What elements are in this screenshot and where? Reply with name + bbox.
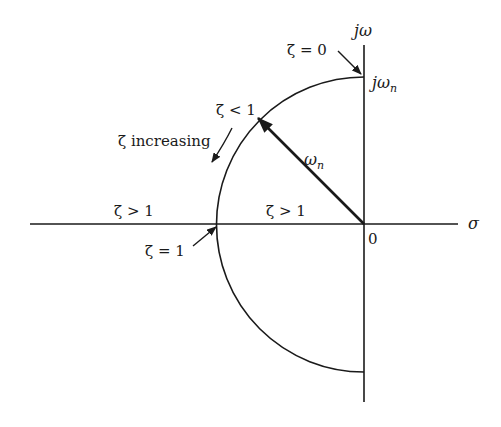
imaginary-axis-label: jω	[351, 21, 372, 40]
zeta-increasing-label: ζ increasing	[118, 132, 211, 150]
zeta-greater-one-left-label: ζ > 1	[114, 202, 154, 220]
zeta-less-one-label: ζ < 1	[216, 101, 256, 119]
zeta-zero-pointer-arrow	[338, 51, 361, 74]
zeta-one-pointer-arrow	[193, 227, 216, 246]
origin-label: 0	[368, 230, 378, 248]
radius-label: ωn	[304, 150, 324, 172]
zeta-increasing-arrow	[212, 128, 232, 162]
zeta-zero-label: ζ = 0	[287, 41, 327, 59]
radius-label-main: ω	[304, 150, 317, 169]
circle-top-label-main: jω	[369, 73, 390, 92]
s-plane-diagram: jω σ 0 jωn ωn ζ = 0 ζ < 1 ζ increasing ζ…	[0, 0, 501, 427]
circle-top-label-sub: n	[390, 82, 397, 95]
real-axis-label: σ	[468, 214, 480, 233]
zeta-one-label: ζ = 1	[145, 242, 185, 260]
radius-label-sub: n	[317, 159, 324, 172]
circle-top-label: jωn	[369, 73, 397, 95]
zeta-greater-one-right-label: ζ > 1	[266, 202, 306, 220]
